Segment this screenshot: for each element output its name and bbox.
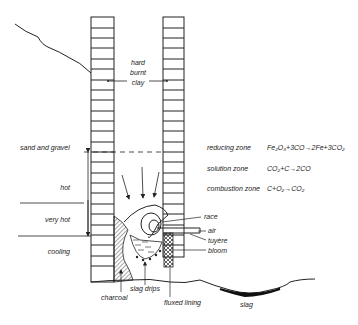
left-wall	[91, 17, 114, 282]
furnace-diagram	[0, 0, 358, 325]
label-slag-drips: slag drips	[130, 285, 160, 292]
wall-label-line2: burnt	[126, 69, 150, 76]
zone-combustion-reaction: C+O₂→CO₂	[267, 185, 304, 192]
label-cooling: cooling	[30, 248, 70, 255]
right-wall	[163, 17, 184, 257]
label-race: race	[204, 213, 218, 220]
charge-arrow	[122, 175, 129, 199]
label-bloom: bloom	[208, 247, 227, 254]
label-tuyere: tuyère	[208, 237, 227, 244]
combustion-zone-outline	[124, 205, 168, 237]
wall-label-line3: clay	[128, 79, 148, 86]
label-air: air	[208, 227, 216, 234]
label-sand-and-gravel: sand and gravel	[20, 144, 70, 151]
label-hot: hot	[40, 184, 70, 191]
label-charcoal: charcoal	[101, 294, 127, 301]
charge-arrow	[154, 172, 159, 197]
zone-reducing-reaction: Fe₂O₃+3CO→2Fe+3CO₂	[267, 144, 345, 151]
zone-solution-reaction: CO₂+C→2CO	[267, 165, 311, 172]
zone-combustion-name: combustion zone	[207, 185, 260, 192]
label-fluxed-lining: fluxed lining	[164, 299, 201, 306]
zone-reducing-name: reducing zone	[207, 144, 251, 151]
label-very-hot: very hot	[30, 216, 70, 223]
charcoal-mass	[114, 216, 133, 282]
ground-line-left	[15, 24, 91, 73]
zone-solution-name: solution zone	[207, 165, 248, 172]
label-slag: slag	[240, 301, 253, 308]
wall-label-line1: hard	[128, 59, 148, 66]
charge-arrow	[142, 167, 143, 198]
